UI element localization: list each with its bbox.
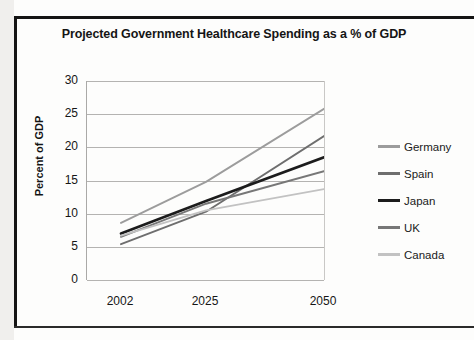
- y-tick-label: 10: [44, 206, 78, 220]
- legend-swatch-spain: [378, 172, 400, 175]
- legend-label: UK: [404, 222, 420, 234]
- legend-label: Japan: [404, 195, 435, 207]
- legend-swatch-germany: [378, 145, 400, 148]
- series-lines: [87, 81, 324, 280]
- y-tick-label: 20: [44, 139, 78, 153]
- legend-item-uk: UK: [378, 214, 470, 241]
- y-tick-label: 25: [44, 106, 78, 120]
- y-tick-label: 5: [44, 239, 78, 253]
- gridline: [87, 280, 324, 281]
- x-tick-label: 2025: [170, 294, 240, 308]
- page-border-top: [14, 16, 474, 19]
- chart-title: Projected Government Healthcare Spending…: [34, 26, 434, 43]
- chart-legend: GermanySpainJapanUKCanada: [378, 133, 470, 268]
- page-border-bottom: [14, 326, 474, 328]
- legend-swatch-canada: [378, 253, 400, 256]
- legend-swatch-japan: [378, 199, 400, 202]
- legend-item-canada: Canada: [378, 241, 470, 268]
- legend-item-japan: Japan: [378, 187, 470, 214]
- legend-swatch-uk: [378, 226, 400, 229]
- legend-label: Spain: [404, 168, 433, 180]
- y-tick-label: 30: [44, 73, 78, 87]
- legend-item-spain: Spain: [378, 160, 470, 187]
- y-tick-label: 0: [44, 272, 78, 286]
- legend-label: Canada: [404, 249, 444, 261]
- y-tick-label: 15: [44, 173, 78, 187]
- series-line-germany: [121, 109, 324, 223]
- x-tick-label: 2050: [288, 294, 358, 308]
- plot-area: [86, 81, 325, 280]
- scan-left-edge: [0, 0, 14, 340]
- legend-item-germany: Germany: [378, 133, 470, 160]
- page-border-left: [14, 16, 17, 326]
- series-line-spain: [121, 136, 324, 244]
- x-tick-label: 2002: [85, 294, 155, 308]
- legend-label: Germany: [404, 141, 451, 153]
